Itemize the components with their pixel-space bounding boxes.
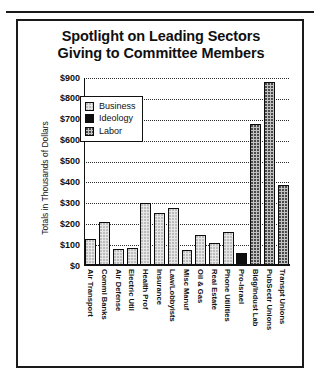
chart-frame: Spotlight on Leading Sectors Giving to C… — [16, 19, 304, 368]
y-tick-label: $700 — [38, 115, 80, 124]
chart-legend: BusinessIdeologyLabor — [80, 96, 143, 142]
y-tick-label: $100 — [38, 241, 80, 250]
y-tick-label: $300 — [38, 199, 80, 208]
legend-item: Ideology — [85, 113, 136, 126]
bar — [140, 203, 151, 266]
x-tick-label: Air Defense — [114, 269, 122, 311]
x-tick-label: Transpt Unions — [278, 269, 286, 324]
bar — [99, 222, 110, 266]
x-tick-label: PubSectr Unions — [265, 269, 273, 330]
bar — [195, 235, 206, 266]
x-tick-label: Pro-Israel — [237, 269, 245, 304]
bar — [264, 82, 275, 266]
legend-swatch-icon — [85, 127, 94, 136]
legend-item: Business — [85, 100, 136, 113]
y-tick-label: $400 — [38, 178, 80, 187]
y-tick-label: $200 — [38, 220, 80, 229]
legend-label: Business — [99, 102, 136, 111]
top-divider-rule — [6, 11, 314, 13]
y-axis-tick-labels: $900$800$700$600$500$400$300$200$100$0 — [38, 21, 80, 366]
x-tick-label: Phone Utilities — [223, 269, 231, 322]
x-tick-label: Misc Manuf — [182, 269, 190, 310]
x-tick-label: Insurance — [155, 269, 163, 305]
bar — [85, 239, 96, 266]
plot-wrapper: Spotlight on Leading Sectors Giving to C… — [18, 21, 302, 366]
x-tick-label: Health Prof — [141, 269, 149, 310]
x-tick-label: Air Transport — [86, 269, 94, 317]
y-tick-label: $600 — [38, 136, 80, 145]
chart-page: Spotlight on Leading Sectors Giving to C… — [0, 0, 320, 384]
x-axis-tick-labels: Air TransportComml BanksAir DefenseElect… — [84, 268, 290, 364]
legend-label: Labor — [99, 127, 122, 136]
bar — [209, 243, 220, 266]
bar — [168, 208, 179, 266]
legend-item: Labor — [85, 125, 136, 138]
x-tick-label: Electric Util — [127, 269, 135, 311]
legend-swatch-icon — [85, 102, 94, 111]
x-tick-label: Oil & Gas — [196, 269, 204, 303]
legend-label: Ideology — [99, 114, 133, 123]
bar — [154, 213, 165, 266]
x-tick-label: Real Estate — [210, 269, 218, 310]
y-tick-label: $0 — [38, 262, 80, 271]
y-tick-label: $500 — [38, 157, 80, 166]
y-tick-label: $800 — [38, 94, 80, 103]
x-tick-label: Law/Lobbyists — [168, 269, 176, 322]
bar — [250, 124, 261, 266]
legend-swatch-icon — [85, 114, 94, 123]
x-tick-label: Bldg/Indust Lab — [251, 269, 259, 326]
y-tick-label: $900 — [38, 74, 80, 83]
bar — [223, 232, 234, 266]
bar — [278, 185, 289, 266]
x-axis-line — [84, 264, 290, 266]
x-tick-label: Comml Banks — [100, 269, 108, 320]
